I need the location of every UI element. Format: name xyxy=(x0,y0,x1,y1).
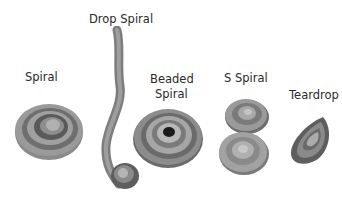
label-spiral: Spiral xyxy=(25,70,58,85)
label-beaded-spiral-line1: Beaded xyxy=(150,72,194,87)
label-teardrop: Teardrop xyxy=(289,88,339,103)
spiral-shape-image xyxy=(12,100,87,162)
beaded-spiral-shape-image xyxy=(132,105,204,170)
teardrop-shape-image xyxy=(288,114,333,169)
label-s-spiral: S Spiral xyxy=(224,71,268,86)
label-drop-spiral: Drop Spiral xyxy=(89,12,153,27)
label-beaded-spiral-line2: Spiral xyxy=(155,87,188,102)
diagram-canvas: Spiral Drop Spiral Beaded Spiral S Spira… xyxy=(0,0,342,207)
s-spiral-shape-image xyxy=(214,98,276,180)
